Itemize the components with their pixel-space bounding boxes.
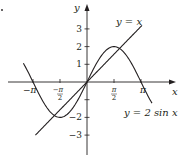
x-tick-label-denominator: 2 (112, 94, 116, 102)
y-tick-label: 1 (76, 59, 82, 69)
series-line-y-equals-x (35, 25, 142, 135)
chart: −π−π2π2π321−2−3 xyy = xy = 2 sin x (0, 0, 183, 158)
y-tick-label: −3 (69, 130, 83, 140)
labels: xyy = xy = 2 sin x (73, 2, 178, 118)
annotation-y-equals-2sinx: y = 2 sin x (123, 107, 178, 118)
stray-dot (1, 9, 3, 11)
y-tick-label: 2 (76, 42, 82, 52)
x-axis-label: x (172, 86, 178, 97)
x-tick-label-numerator: π (111, 86, 117, 94)
y-tick-label: 3 (76, 24, 82, 34)
x-tick-label-denominator: 2 (58, 94, 62, 102)
y-axis-label: y (73, 2, 80, 13)
y-tick-label: −2 (69, 112, 82, 122)
x-axis-arrow (169, 80, 176, 85)
annotation-y-equals-x: y = x (115, 16, 142, 27)
y-axis-arrow (85, 4, 90, 11)
x-tick-label-numerator: −π (53, 86, 64, 94)
series (23, 25, 152, 135)
